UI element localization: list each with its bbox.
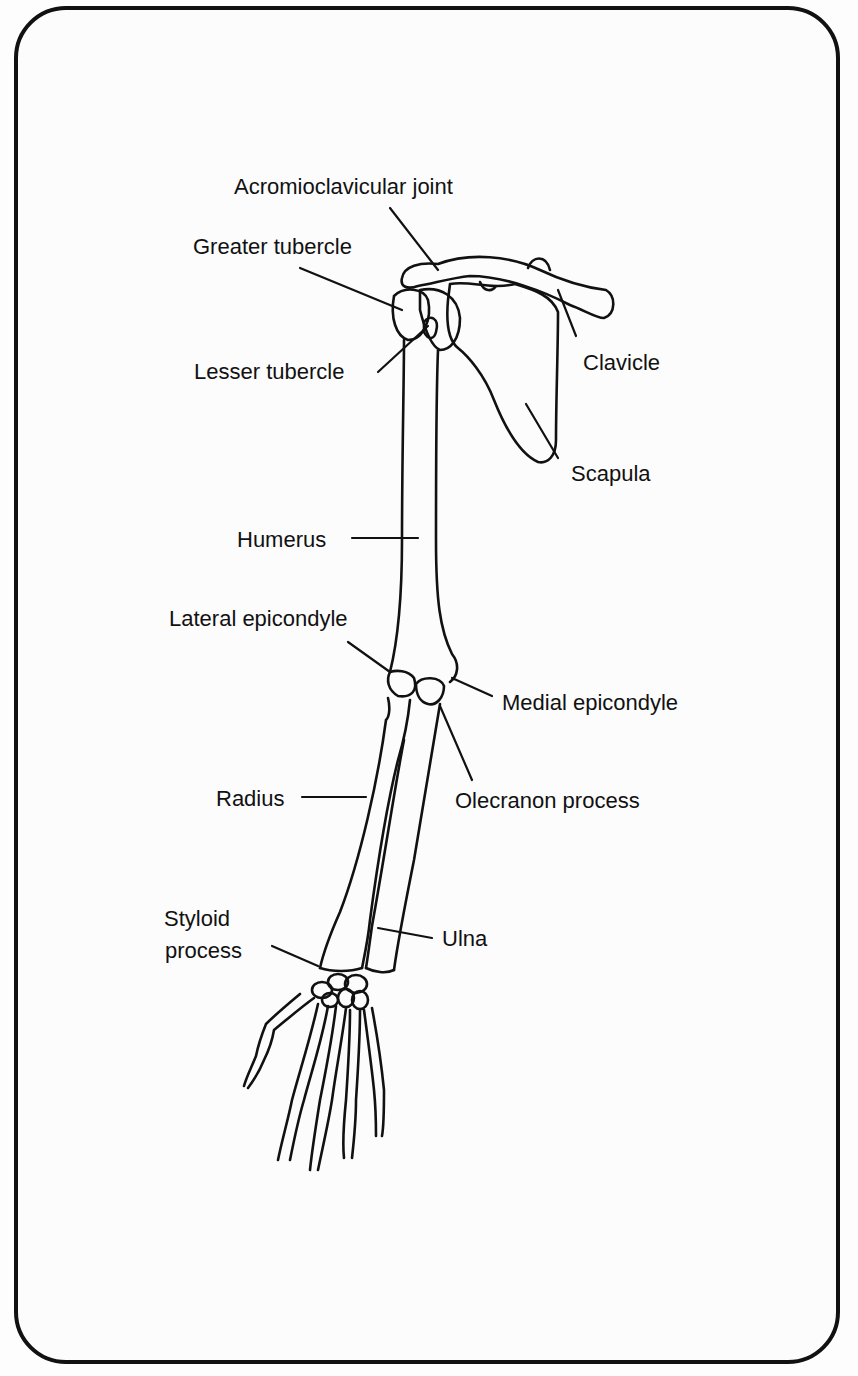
label-humerus: Humerus [237, 527, 326, 553]
carpal-bones [312, 974, 368, 1009]
label-acromioclavicular-joint: Acromioclavicular joint [234, 174, 453, 200]
label-olecranon-process: Olecranon process [455, 788, 640, 814]
ulna-bone [394, 704, 440, 970]
label-greater-tubercle: Greater tubercle [193, 234, 352, 260]
label-clavicle: Clavicle [583, 350, 660, 376]
label-lateral-epicondyle: Lateral epicondyle [169, 606, 348, 632]
label-styloid-process-line1: Styloid [164, 906, 230, 932]
clavicle-bone [402, 257, 614, 318]
label-ulna: Ulna [442, 926, 487, 952]
middle-finger-bones [310, 1006, 346, 1170]
little-finger-bones [364, 1008, 384, 1136]
label-lesser-tubercle: Lesser tubercle [194, 359, 344, 385]
scapula-bone [447, 283, 558, 462]
index-finger-bones [278, 1004, 328, 1160]
label-radius: Radius [216, 786, 284, 812]
ring-finger-bones [343, 1010, 360, 1158]
label-scapula: Scapula [571, 461, 651, 487]
humerus-bone [390, 340, 404, 672]
label-medial-epicondyle: Medial epicondyle [502, 690, 678, 716]
label-styloid-process-line2: process [165, 938, 242, 964]
arm-skeleton-illustration [0, 0, 858, 1376]
thumb-bones [244, 994, 314, 1088]
